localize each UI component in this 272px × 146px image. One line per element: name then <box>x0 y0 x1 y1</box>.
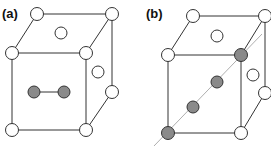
panel-b-label: (b) <box>146 6 163 21</box>
corner-atom <box>162 49 175 62</box>
face-center-atom <box>211 30 223 42</box>
panel-b: (b) <box>146 6 271 146</box>
corner-atom <box>106 86 119 99</box>
panel-a: (a) <box>2 6 119 137</box>
corner-atom <box>31 8 44 21</box>
corner-atom <box>6 47 19 60</box>
panel-b-atoms <box>162 10 272 140</box>
interstitial-atom <box>58 86 70 98</box>
panel-a-atoms <box>6 8 119 137</box>
crystal-structure-diagram: (a) (b) <box>0 0 271 146</box>
diagonal-atom <box>211 76 223 88</box>
face-center-atom <box>55 27 67 39</box>
face-center-atom <box>247 69 259 81</box>
diagonal-atom <box>235 49 248 62</box>
corner-atom <box>80 47 93 60</box>
corner-atom <box>259 87 272 100</box>
corner-atom <box>106 8 119 21</box>
diagonal-atom <box>187 101 199 113</box>
diagonal-atom <box>162 127 175 140</box>
panel-a-label: (a) <box>2 6 18 21</box>
face-center-atom <box>92 66 104 78</box>
corner-atom <box>80 124 93 137</box>
corner-atom <box>259 10 272 23</box>
corner-atom <box>235 127 248 140</box>
corner-atom <box>6 124 19 137</box>
corner-atom <box>187 10 200 23</box>
interstitial-atom <box>28 86 40 98</box>
